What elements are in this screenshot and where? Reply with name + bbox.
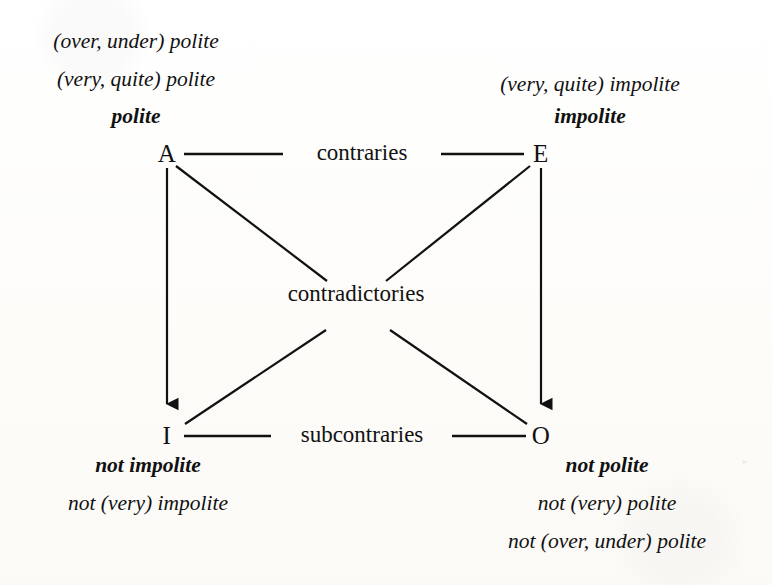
- gloss-top-right-line2: impolite: [554, 106, 626, 128]
- edge-contradictory-a-o-upper: [176, 166, 327, 281]
- gloss-bottom-right-line3: not (over, under) polite: [508, 531, 706, 553]
- edge-contradictory-a-o-lower: [390, 330, 527, 424]
- gloss-bottom-left-line1: not impolite: [95, 455, 201, 477]
- relation-contradictories: contradictories: [288, 282, 425, 305]
- gloss-top-right-line1: (very, quite) impolite: [500, 74, 680, 96]
- vertex-o: O: [532, 423, 551, 448]
- vertex-i: I: [163, 423, 172, 448]
- edge-contradictory-e-i-lower: [185, 330, 326, 424]
- gloss-top-left-line2: (very, quite) polite: [57, 69, 215, 91]
- relation-contraries: contraries: [317, 141, 408, 164]
- vertex-a: A: [158, 141, 177, 166]
- gloss-bottom-left-line2: not (very) impolite: [68, 493, 228, 515]
- square-of-opposition-figure: A E I O contraries contradictories subco…: [0, 0, 772, 585]
- gloss-bottom-right-line1: not polite: [565, 455, 648, 477]
- gloss-top-left-line1: (over, under) polite: [53, 31, 218, 53]
- gloss-bottom-right-line2: not (very) polite: [538, 493, 677, 515]
- edge-contradictory-e-i-upper: [386, 166, 530, 281]
- relation-subcontraries: subcontraries: [301, 423, 424, 446]
- vertex-e: E: [533, 141, 549, 166]
- gloss-top-left-line3: polite: [112, 106, 161, 128]
